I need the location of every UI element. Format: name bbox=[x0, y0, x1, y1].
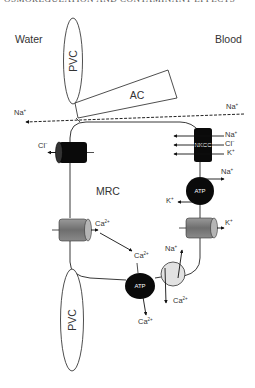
k-channel: K+ bbox=[179, 218, 233, 238]
cl-channel-ion: Cl− bbox=[38, 141, 48, 150]
mrc-ion-transport-diagram: Water Blood PVC AC Na+ Na+ Cl− MRC NKCC … bbox=[0, 0, 255, 388]
na-ca-exchanger: Na+ Ca2+ bbox=[161, 244, 188, 305]
atp-bottom-label: ATP bbox=[134, 283, 145, 289]
exchanger-ca-ion: Ca2+ bbox=[173, 296, 188, 305]
ca-atpase: ATP Ca2+ bbox=[125, 263, 155, 326]
nkcc-k-ion: K+ bbox=[227, 148, 235, 157]
accessory-cell: AC bbox=[75, 70, 177, 118]
exchanger-na-ion: Na+ bbox=[165, 244, 178, 253]
na-blood-label: Na+ bbox=[226, 102, 239, 111]
pvc-top-label: PVC bbox=[67, 50, 79, 72]
atp-right-k-ion: K+ bbox=[166, 196, 174, 205]
blood-label: Blood bbox=[215, 33, 242, 45]
water-label: Water bbox=[15, 33, 43, 45]
mrc-label: MRC bbox=[96, 185, 120, 197]
atp-right-label: ATP bbox=[194, 188, 205, 194]
nkcc-cl-ion: Cl− bbox=[225, 139, 235, 148]
nkcc-cotransporter: NKCC Na+ Cl− K+ bbox=[174, 128, 238, 162]
nkcc-na-ion: Na+ bbox=[225, 130, 238, 139]
pvc-top: PVC bbox=[64, 18, 83, 104]
pvc-bottom: PVC bbox=[61, 269, 84, 371]
cl-channel: Cl− bbox=[38, 141, 94, 163]
atp-right-na-ion: Na+ bbox=[221, 167, 234, 176]
k-channel-ion: K+ bbox=[225, 218, 233, 227]
ca-channel: Ca2+ Ca2+ bbox=[52, 219, 149, 260]
accessory-cell-label: AC bbox=[130, 89, 145, 101]
ca-channel-ion: Ca2+ bbox=[95, 219, 110, 228]
ca-cytosol-ion: Ca2+ bbox=[134, 251, 149, 260]
na-water-label: Na+ bbox=[14, 108, 27, 117]
atp-bottom-ca-ion: Ca2+ bbox=[138, 317, 153, 326]
pvc-bottom-label: PVC bbox=[66, 309, 78, 331]
